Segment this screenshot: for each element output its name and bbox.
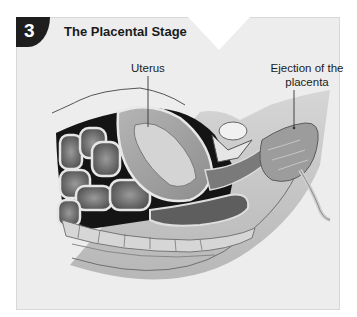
anatomical-illustration [0, 0, 357, 317]
label-ejection-of-placenta: Ejection of the placenta [264, 61, 350, 89]
label-uterus: Uterus [131, 61, 165, 75]
figure-title: The Placental Stage [64, 24, 187, 39]
notch-triangle [188, 17, 250, 50]
step-number: 3 [24, 20, 35, 42]
